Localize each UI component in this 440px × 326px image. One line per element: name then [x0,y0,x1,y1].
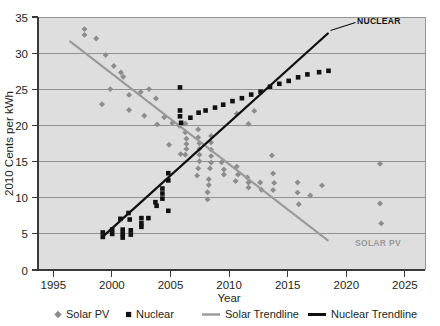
y-axis-title: 2010 Cents per kWh [3,91,15,196]
x-tick-label-2020: 2020 [334,279,360,291]
solar-annotation-label: SOLAR PV [355,238,401,248]
x-axis-title: Year [217,292,240,304]
y-axis-tick-labels: 35 30 25 20 15 10 5 0 [15,12,28,277]
x-axis-tick-labels: 1995 2000 2005 2010 2015 2020 2025 [41,279,418,291]
y-tick-label-10: 10 [15,192,28,204]
chart-figure: NUCLEAR SOLAR PV 35 30 25 20 15 10 5 0 2… [0,0,440,326]
y-tick-label-5: 5 [22,228,28,240]
y-tick-label-20: 20 [15,120,28,132]
nuclear-annotation-label: NUCLEAR [357,16,401,26]
scatter-chart: NUCLEAR SOLAR PV 35 30 25 20 15 10 5 0 2… [0,0,440,326]
x-tick-label-2010: 2010 [216,279,242,291]
plot-area-background [38,17,425,270]
chart-legend: Solar PV Nuclear Solar Trendline Nuclear… [54,308,417,320]
y-tick-label-25: 25 [15,84,28,96]
y-tick-label-35: 35 [15,12,28,24]
x-tick-label-1995: 1995 [41,279,67,291]
x-tick-label-2005: 2005 [158,279,184,291]
y-tick-label-30: 30 [15,48,28,60]
x-tick-label-2025: 2025 [392,279,418,291]
x-tick-label-2015: 2015 [275,279,301,291]
legend-label-nuclear-trendline[interactable]: Nuclear Trendline [331,308,417,320]
y-tick-label-15: 15 [15,156,28,168]
legend-marker-solar-pv [54,311,61,318]
legend-label-solar-pv[interactable]: Solar PV [66,308,110,320]
x-tick-label-2000: 2000 [99,279,125,291]
legend-label-solar-trendline[interactable]: Solar Trendline [225,308,299,320]
x-axis-ticks [53,270,405,277]
legend-label-nuclear[interactable]: Nuclear [136,308,174,320]
legend-marker-nuclear [126,312,131,317]
y-axis-ticks [32,17,38,270]
y-tick-label-0: 0 [22,265,28,277]
